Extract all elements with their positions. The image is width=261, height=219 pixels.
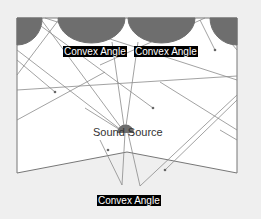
- label-convex-angle-bottom: Convex Angle: [97, 195, 161, 206]
- label-convex-angle-top-left: Convex Angle: [63, 46, 127, 57]
- label-sound-source: Sound Source: [93, 127, 163, 138]
- acoustic-reflection-diagram: Convex Angle Convex Angle Sound Source C…: [0, 0, 261, 219]
- label-convex-angle-top-right: Convex Angle: [134, 46, 198, 57]
- diagram-canvas: [0, 0, 261, 219]
- room-outline: [17, 18, 237, 173]
